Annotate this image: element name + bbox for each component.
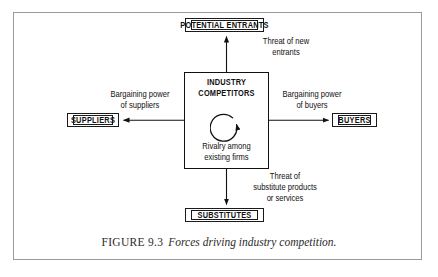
node-substitutes-inner: SUBSTITUTES xyxy=(191,210,258,220)
node-potential-entrants-inner: POTENTIAL ENTRANTS xyxy=(191,20,258,30)
node-suppliers: SUPPLIERS xyxy=(67,113,119,127)
rivalry-line-2: existing firms xyxy=(185,151,268,164)
node-substitutes: SUBSTITUTES xyxy=(185,208,264,222)
node-rivalry-sublabel: Rivalry among existing firms xyxy=(185,141,268,163)
figure-container: POTENTIAL ENTRANTS SUPPLIERS BUYERS SUBS… xyxy=(0,0,438,277)
node-suppliers-label: SUPPLIERS xyxy=(71,115,115,124)
node-substitutes-label: SUBSTITUTES xyxy=(197,210,251,219)
figure-caption-text: Forces driving industry competition. xyxy=(168,236,336,248)
node-buyers-inner: BUYERS xyxy=(338,115,371,125)
industry-competitors-line-2: COMPETITORS xyxy=(185,87,268,100)
node-industry-competitors-title: INDUSTRY COMPETITORS xyxy=(185,78,268,99)
threat-substitutes-line-3: or services xyxy=(232,192,338,205)
bargaining-suppliers-line-2: of suppliers xyxy=(92,99,188,112)
figure-caption-label: FIGURE 9.3 xyxy=(102,236,164,248)
node-potential-entrants-label: POTENTIAL ENTRANTS xyxy=(180,20,269,29)
node-potential-entrants: POTENTIAL ENTRANTS xyxy=(185,18,264,32)
edge-label-threat-of-new-entrants: Threat of new entrants xyxy=(238,36,334,58)
edge-label-bargaining-power-of-buyers: Bargaining power of buyers xyxy=(264,89,360,111)
node-suppliers-inner: SUPPLIERS xyxy=(73,115,113,125)
bargaining-buyers-line-2: of buyers xyxy=(264,99,360,112)
node-buyers: BUYERS xyxy=(332,113,377,127)
edge-label-bargaining-power-of-suppliers: Bargaining power of suppliers xyxy=(92,89,188,111)
node-industry-competitors: INDUSTRY COMPETITORS Rivalry among exist… xyxy=(184,72,269,169)
node-buyers-label: BUYERS xyxy=(338,115,370,124)
threat-new-entrants-line-2: entrants xyxy=(238,46,334,59)
figure-caption: FIGURE 9.3Forces driving industry compet… xyxy=(0,232,438,250)
edge-label-threat-of-substitutes: Threat of substitute products or service… xyxy=(232,171,338,205)
